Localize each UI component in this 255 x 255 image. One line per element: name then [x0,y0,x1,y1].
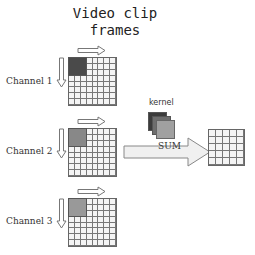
grid-cell [110,99,116,105]
output-cell [209,137,216,144]
kernel-window-shade [68,198,87,217]
output-cell [223,158,230,165]
channel-2-label: Channel 2 [6,146,52,156]
output-cell [216,158,223,165]
kernel-window-shade [68,128,87,147]
output-cell [216,151,223,158]
output-cell [230,130,237,137]
output-cell [237,130,244,137]
horizontal-slide-arrow-icon [78,117,106,126]
output-cell [209,144,216,151]
sum-label: SUM [158,141,181,151]
channel-1-label: Channel 1 [6,76,52,86]
vertical-slide-arrow-icon [57,199,66,229]
output-cell [216,137,223,144]
title-line-1: Video clip [40,5,190,22]
output-cell [237,144,244,151]
output-cell [237,151,244,158]
diagram-title: Video clip frames [40,5,190,39]
output-cell [230,137,237,144]
output-cell [209,151,216,158]
output-cell [223,151,230,158]
output-cell [216,144,223,151]
output-feature-map [208,129,245,166]
horizontal-slide-arrow-icon [78,187,106,196]
output-cell [230,144,237,151]
output-cell [230,151,237,158]
channel-3-label: Channel 3 [6,216,52,226]
vertical-slide-arrow-icon [57,58,66,88]
horizontal-slide-arrow-icon [78,46,106,55]
vertical-slide-arrow-icon [57,129,66,159]
grid-cell [110,240,116,246]
output-cell [223,130,230,137]
output-cell [223,144,230,151]
output-cell [209,158,216,165]
title-line-2: frames [40,22,190,39]
output-cell [209,130,216,137]
output-cell [237,158,244,165]
output-cell [216,130,223,137]
grid-cell [110,170,116,176]
kernel-window-shade [68,57,87,76]
output-cell [230,158,237,165]
kernel-label: kernel [149,98,174,107]
output-cell [237,137,244,144]
output-cell [223,137,230,144]
